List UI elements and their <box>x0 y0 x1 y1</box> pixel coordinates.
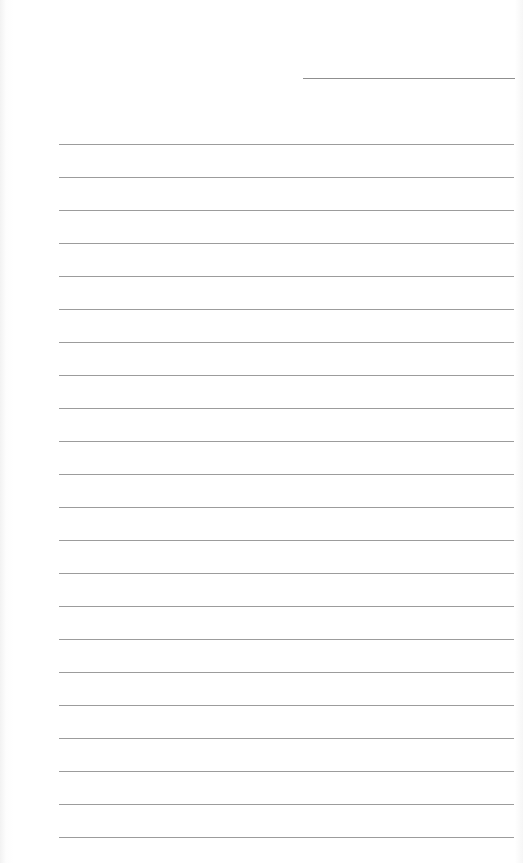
ruled-line[interactable] <box>59 705 514 706</box>
ruled-line[interactable] <box>59 177 514 178</box>
ruled-line[interactable] <box>59 243 514 244</box>
ruled-line[interactable] <box>59 606 514 607</box>
ruled-line[interactable] <box>59 639 514 640</box>
ruled-line[interactable] <box>59 342 514 343</box>
ruled-line[interactable] <box>59 375 514 376</box>
ruled-line[interactable] <box>59 837 514 838</box>
ruled-line[interactable] <box>59 144 514 145</box>
ruled-line[interactable] <box>59 540 514 541</box>
lined-paper-page <box>0 0 523 863</box>
ruled-line[interactable] <box>59 804 514 805</box>
ruled-line[interactable] <box>59 408 514 409</box>
date-line[interactable] <box>303 78 515 79</box>
ruled-line[interactable] <box>59 210 514 211</box>
ruled-line[interactable] <box>59 573 514 574</box>
ruled-line[interactable] <box>59 276 514 277</box>
ruled-line[interactable] <box>59 771 514 772</box>
ruled-line[interactable] <box>59 309 514 310</box>
ruled-line[interactable] <box>59 672 514 673</box>
ruled-line[interactable] <box>59 474 514 475</box>
ruled-line[interactable] <box>59 441 514 442</box>
ruled-line[interactable] <box>59 738 514 739</box>
ruled-line[interactable] <box>59 507 514 508</box>
